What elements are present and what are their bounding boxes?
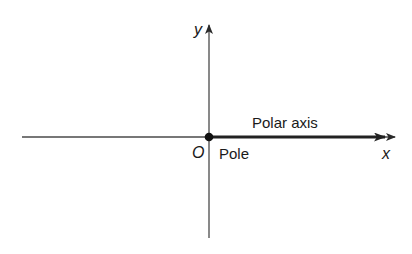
- x-axis-label: x: [382, 146, 390, 162]
- y-axis-label: y: [194, 22, 202, 38]
- pole-label: Pole: [219, 146, 249, 161]
- polar-axis-label: Polar axis: [252, 115, 318, 130]
- origin-label: O: [192, 145, 204, 161]
- polar-diagram: [0, 0, 412, 254]
- pole-point: [205, 133, 214, 142]
